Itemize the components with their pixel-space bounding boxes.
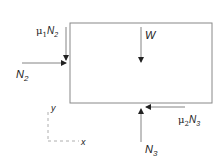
x-axis-label: x [80, 137, 86, 147]
free-body-diagram: W μ1N2 N2 N3 μ2N3 y x [0, 0, 224, 160]
friction-left-label: μ1N2 [36, 25, 58, 39]
normal-bottom-label: N3 [145, 143, 158, 158]
normal-left-label: N2 [16, 68, 29, 83]
y-axis-label: y [50, 103, 56, 113]
friction-bottom-label: μ2N3 [178, 114, 200, 128]
weight-label: W [145, 29, 157, 41]
